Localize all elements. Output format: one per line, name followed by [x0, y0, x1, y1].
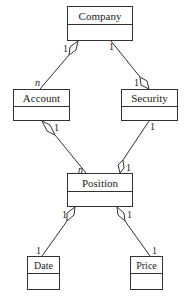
mult-position-price-price: 1	[152, 246, 157, 256]
association-security-position	[123, 121, 149, 160]
mult-position-date-date: 1	[36, 246, 41, 256]
class-security-name: Security	[122, 90, 177, 107]
mult-account-position-account: 1	[54, 123, 59, 133]
mult-company-security-security: 1	[134, 78, 139, 88]
mult-account-position-position: n	[78, 165, 83, 175]
class-date: Date	[27, 256, 60, 290]
class-position-name: Position	[68, 174, 132, 192]
aggregation-diamond-icon	[118, 160, 124, 173]
class-position: Position	[67, 173, 133, 207]
class-account: Account	[13, 89, 70, 121]
class-price-name: Price	[131, 257, 162, 274]
class-security: Security	[121, 89, 178, 121]
mult-security-position-security: 1	[150, 122, 155, 132]
class-account-name: Account	[14, 90, 69, 107]
association-company-security	[111, 41, 140, 77]
mult-security-position-position: 1	[126, 163, 131, 173]
mult-position-price-position: 1	[127, 210, 132, 220]
class-price: Price	[130, 256, 163, 290]
association-position-price	[125, 221, 150, 256]
association-lines	[0, 0, 188, 298]
aggregation-diamond-icon	[117, 207, 125, 221]
aggregation-diamond-icon	[69, 41, 78, 55]
association-position-date	[42, 221, 67, 256]
class-company: Company	[67, 6, 133, 41]
mult-company-account-company: 1	[63, 44, 68, 54]
mult-company-account-account: n	[35, 78, 40, 88]
mult-position-date-position: 1	[62, 210, 67, 220]
class-company-name: Company	[68, 7, 132, 25]
mult-company-security-company: 1	[109, 42, 114, 52]
aggregation-diamond-icon	[140, 77, 149, 89]
aggregation-diamond-icon	[67, 207, 75, 221]
class-date-name: Date	[28, 257, 59, 274]
association-company-account	[40, 55, 69, 89]
